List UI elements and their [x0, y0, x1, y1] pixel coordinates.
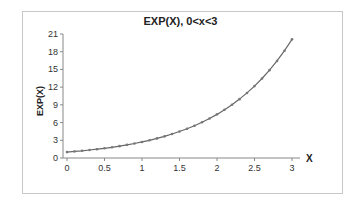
data-point-marker	[126, 144, 129, 147]
data-point-marker	[231, 103, 234, 106]
data-point-marker	[148, 139, 151, 142]
data-point-marker	[111, 146, 114, 149]
x-tick-label: 1.5	[173, 163, 186, 173]
data-point-marker	[171, 133, 174, 136]
data-point-marker	[88, 149, 91, 152]
series-line	[67, 39, 292, 152]
data-point-marker	[253, 85, 256, 88]
data-point-marker	[186, 127, 189, 130]
x-tick-label: 0	[64, 163, 69, 173]
y-tick-label: 15	[48, 64, 58, 74]
x-tick-label: 2.5	[248, 163, 261, 173]
data-point-marker	[163, 135, 166, 138]
data-point-marker	[246, 92, 249, 95]
data-point-marker	[291, 38, 294, 41]
y-tick-label: 21	[48, 29, 58, 39]
x-tick-label: 0.5	[98, 163, 111, 173]
data-point-marker	[96, 148, 99, 151]
data-point-marker	[283, 49, 286, 52]
data-point-marker	[73, 150, 76, 153]
data-point-marker	[66, 151, 69, 154]
data-point-marker	[156, 137, 159, 140]
x-tick-label: 1	[139, 163, 144, 173]
y-tick-label: 9	[53, 100, 58, 110]
data-point-marker	[133, 142, 136, 145]
data-point-marker	[268, 69, 271, 72]
y-tick-label: 6	[53, 118, 58, 128]
data-point-marker	[238, 98, 241, 101]
y-tick-label: 12	[48, 82, 58, 92]
plot-area: 03691215182100.511.522.53	[0, 0, 361, 206]
data-point-marker	[201, 121, 204, 124]
x-tick-label: 3	[289, 163, 294, 173]
x-tick-label: 2	[214, 163, 219, 173]
data-point-marker	[261, 77, 264, 80]
data-point-marker	[178, 130, 181, 133]
data-point-marker	[81, 149, 84, 152]
data-point-marker	[276, 60, 279, 63]
data-point-marker	[208, 117, 211, 120]
data-point-marker	[193, 124, 196, 127]
y-tick-label: 3	[53, 135, 58, 145]
data-point-marker	[216, 113, 219, 116]
y-tick-label: 0	[53, 153, 58, 163]
data-point-marker	[141, 141, 144, 144]
data-point-marker	[223, 108, 226, 111]
data-point-marker	[118, 145, 121, 148]
y-tick-label: 18	[48, 47, 58, 57]
data-point-marker	[103, 147, 106, 150]
